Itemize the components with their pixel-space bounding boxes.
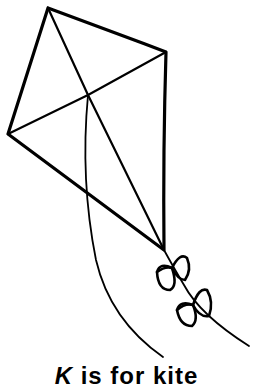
tail-bow-2 xyxy=(177,290,211,326)
kite-illustration xyxy=(0,0,253,392)
kite-tail xyxy=(164,250,249,346)
caption-letter: K xyxy=(55,362,73,389)
caption: K is for kite xyxy=(0,362,253,390)
kite-frame xyxy=(8,8,166,250)
caption-text: is for kite xyxy=(73,362,198,389)
